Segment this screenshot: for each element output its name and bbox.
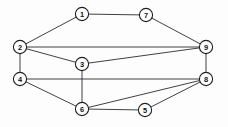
graph-node-9[interactable]: 9 [199, 40, 212, 53]
graph-edge-7-9 [152, 18, 200, 44]
graph-edge-5-8 [151, 82, 200, 107]
edge-layer [20, 14, 206, 110]
graph-node-label-9: 9 [204, 43, 208, 52]
graph-node-label-8: 8 [204, 75, 208, 84]
graph-node-label-6: 6 [80, 105, 84, 114]
graph-node-label-7: 7 [144, 11, 148, 20]
graph-node-3[interactable]: 3 [75, 57, 88, 70]
graph-node-5[interactable]: 5 [138, 103, 151, 116]
graph-node-7[interactable]: 7 [139, 8, 152, 21]
graph-edge-6-5 [89, 109, 139, 110]
graph-figure: 123456789 [0, 0, 228, 127]
graph-edge-1-7 [89, 14, 140, 15]
graph-node-label-1: 1 [80, 10, 84, 19]
graph-node-6[interactable]: 6 [75, 102, 88, 115]
graph-node-label-3: 3 [80, 60, 84, 69]
node-layer: 123456789 [13, 7, 212, 116]
graph-node-2[interactable]: 2 [13, 40, 26, 53]
graph-edge-2-3 [26, 49, 75, 63]
graph-node-label-2: 2 [18, 43, 22, 52]
graph-edge-3-9 [89, 48, 200, 63]
graph-edge-4-6 [26, 82, 76, 106]
graph-node-4[interactable]: 4 [13, 72, 26, 85]
graph-edge-1-2 [26, 17, 76, 44]
graph-node-8[interactable]: 8 [199, 72, 212, 85]
graph-node-label-5: 5 [143, 106, 147, 115]
graph-node-1[interactable]: 1 [75, 7, 88, 20]
graph-canvas: 123456789 [0, 0, 228, 127]
